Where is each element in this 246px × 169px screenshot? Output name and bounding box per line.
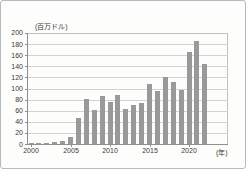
- y-tick-mark-80: [25, 100, 27, 101]
- y-tick-label-60: 60: [3, 107, 23, 114]
- x-axis-line: [27, 144, 228, 145]
- y-tick-label-40: 40: [3, 118, 23, 125]
- y-tick-mark-140: [25, 66, 27, 67]
- y-tick-label-200: 200: [3, 29, 23, 36]
- x-tick-label-2020: 2020: [176, 147, 202, 155]
- x-tick-mark-2015: [150, 145, 151, 147]
- y-axis-line: [27, 33, 28, 145]
- x-tick-mark-2005: [71, 145, 72, 147]
- bar-2022: [202, 64, 207, 144]
- bar-2008: [92, 110, 97, 144]
- y-tick-mark-100: [25, 89, 27, 90]
- y-tick-label-160: 160: [3, 52, 23, 59]
- bar-2009: [100, 96, 105, 144]
- x-tick-mark-2000: [31, 145, 32, 147]
- y-tick-label-20: 20: [3, 129, 23, 136]
- y-tick-mark-160: [25, 55, 27, 56]
- y-tick-label-100: 100: [3, 85, 23, 92]
- y-tick-label-120: 120: [3, 74, 23, 81]
- bar-2003: [52, 142, 57, 144]
- y-tick-label-180: 180: [3, 41, 23, 48]
- x-tick-label-2015: 2015: [137, 147, 163, 155]
- bar-2014: [139, 103, 144, 144]
- bar-2021: [194, 41, 199, 144]
- bar-2002: [44, 143, 49, 144]
- bar-2016: [155, 91, 160, 144]
- y-tick-mark-20: [25, 133, 27, 134]
- bar-2000: [29, 143, 34, 144]
- bar-2019: [179, 90, 184, 144]
- x-tick-mark-2010: [110, 145, 111, 147]
- y-tick-label-80: 80: [3, 96, 23, 103]
- x-tick-label-2005: 2005: [58, 147, 84, 155]
- y-tick-mark-120: [25, 77, 27, 78]
- bar-chart-figure: (百万ドル) (年) 02040608010012014016018020020…: [0, 0, 246, 169]
- bar-2001: [36, 143, 41, 144]
- bar-2012: [123, 109, 128, 144]
- bar-2007: [84, 99, 89, 144]
- y-tick-mark-0: [25, 144, 27, 145]
- bar-2020: [187, 52, 192, 144]
- bar-2015: [147, 84, 152, 144]
- bar-2017: [163, 77, 168, 144]
- y-tick-label-140: 140: [3, 63, 23, 70]
- bar-2018: [171, 82, 176, 144]
- bar-2010: [108, 102, 113, 144]
- y-tick-mark-200: [25, 33, 27, 34]
- bar-2005: [68, 137, 73, 144]
- bar-2006: [76, 118, 81, 144]
- y-tick-mark-180: [25, 44, 27, 45]
- y-tick-mark-60: [25, 111, 27, 112]
- y-axis-title: (百万ドル): [35, 21, 68, 31]
- bar-2004: [60, 141, 65, 144]
- y-tick-mark-40: [25, 122, 27, 123]
- bar-2011: [115, 95, 120, 144]
- bar-2013: [131, 105, 136, 144]
- x-tick-mark-2020: [189, 145, 190, 147]
- x-axis-unit-label: (年): [216, 147, 228, 157]
- x-tick-label-2000: 2000: [18, 147, 44, 155]
- x-tick-label-2010: 2010: [97, 147, 123, 155]
